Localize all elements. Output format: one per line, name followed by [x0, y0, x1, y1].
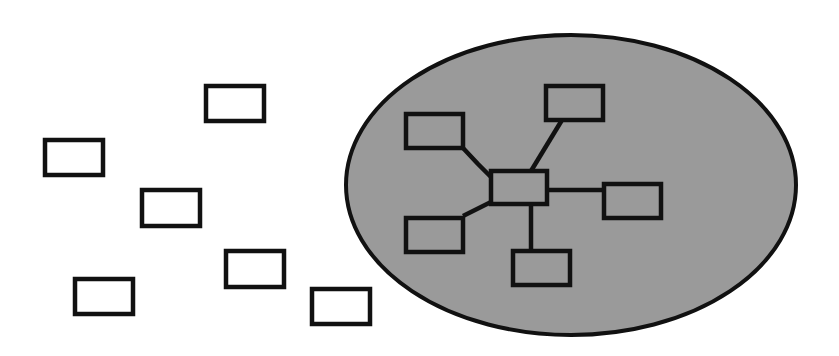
- node-box-s4: [226, 251, 284, 287]
- node-box-n-top-left: [406, 114, 463, 148]
- node-box-n-bottom-left: [406, 218, 463, 252]
- cluster-ellipse: [346, 35, 796, 335]
- node-box-n-right: [604, 184, 661, 218]
- node-box-s6: [312, 289, 370, 324]
- node-box-s5: [75, 279, 133, 314]
- node-box-n-top: [546, 86, 603, 120]
- scattered-nodes: [45, 86, 370, 324]
- node-box-s1: [206, 86, 264, 121]
- node-box-s2: [45, 140, 103, 175]
- node-box-hub: [491, 171, 547, 204]
- node-box-s3: [142, 190, 200, 226]
- network-diagram: [0, 0, 839, 356]
- node-box-n-bottom: [513, 251, 570, 285]
